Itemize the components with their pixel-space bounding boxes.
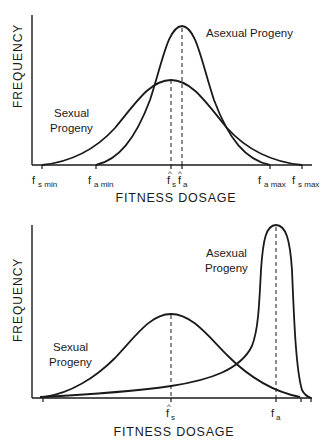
bottom-x-axis-label: FITNESS DOSAGE — [114, 425, 235, 439]
top-tick-label-fa-hat: ^ f a — [178, 169, 188, 189]
svg-text:a: a — [276, 413, 281, 422]
svg-text:f: f — [271, 407, 275, 419]
svg-text:f: f — [258, 174, 262, 186]
svg-text:a: a — [183, 180, 188, 189]
top-y-axis-label: FREQUENCY — [11, 24, 25, 108]
svg-text:s: s — [172, 180, 176, 189]
top-tick-label-fa-min: f a min — [88, 174, 114, 189]
bottom-sexual-label-line1: Sexual — [53, 341, 88, 353]
svg-text:f: f — [32, 174, 36, 186]
top-asexual-label: Asexual Progeny — [206, 27, 293, 39]
top-tick-label-fa-max: f a max — [258, 174, 286, 189]
top-panel: Asexual Progeny Sexual Progeny FREQUENCY… — [11, 15, 319, 205]
bottom-sexual-label-line2: Progeny — [49, 356, 92, 368]
svg-text:a min: a min — [94, 180, 114, 189]
svg-text:f: f — [292, 174, 296, 186]
bottom-tick-label-fs-hat: ^ f s — [166, 402, 175, 422]
bottom-tick-label-fa: f a — [271, 407, 281, 422]
bottom-asexual-curve — [40, 225, 311, 398]
top-sexual-label-line1: Sexual — [54, 107, 89, 119]
svg-text:s max: s max — [298, 180, 319, 189]
top-tick-label-fs-min: f s min — [32, 174, 57, 189]
top-tick-label-fs-max: f s max — [292, 174, 319, 189]
top-tick-label-fs-hat: ^ f s — [167, 169, 176, 189]
bottom-asexual-label-line1: Asexual — [206, 247, 247, 259]
bottom-asexual-label-line2: Progeny — [205, 262, 248, 274]
top-x-axis-label: FITNESS DOSAGE — [116, 191, 237, 205]
svg-text:a max: a max — [264, 180, 286, 189]
bottom-panel: Asexual Progeny Sexual Progeny FREQUENCY… — [11, 225, 312, 439]
svg-text:f: f — [88, 174, 92, 186]
svg-text:s min: s min — [38, 180, 57, 189]
figure-canvas: Asexual Progeny Sexual Progeny FREQUENCY… — [0, 0, 334, 442]
svg-text:s: s — [171, 413, 175, 422]
top-sexual-label-line2: Progeny — [50, 122, 93, 134]
bottom-y-axis-label: FREQUENCY — [11, 258, 25, 342]
